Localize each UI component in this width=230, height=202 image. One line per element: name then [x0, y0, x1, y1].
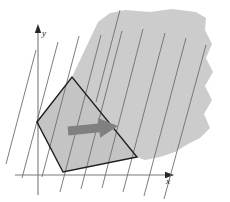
y-axis-label: y [41, 28, 46, 38]
figure-container: x y [0, 0, 230, 202]
linear-programming-figure: x y [0, 0, 230, 202]
x-axis-label: x [165, 176, 170, 186]
